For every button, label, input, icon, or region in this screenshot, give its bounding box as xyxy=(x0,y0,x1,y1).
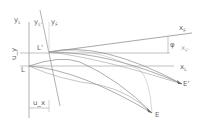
arrow-E-icon xyxy=(147,108,152,113)
label-E-prime: E' xyxy=(183,80,189,88)
label-u-x: u_x xyxy=(33,99,45,107)
label-yL: yL xyxy=(14,16,21,25)
label-L: L xyxy=(21,66,25,74)
label-L-prime: L' xyxy=(37,44,43,52)
label-yF: yF xyxy=(51,18,58,27)
trajectory-curve xyxy=(29,59,152,113)
trajectory-curve xyxy=(29,66,152,113)
label-u-y: u_y xyxy=(10,48,18,60)
arrow-E-prime-icon xyxy=(177,80,182,84)
label-xF-prime: xF' xyxy=(181,44,189,53)
label-xF: xF xyxy=(179,24,186,33)
label-phi: φ xyxy=(170,41,175,49)
trajectory-curve xyxy=(49,50,152,113)
label-yL-prime: yL' xyxy=(34,18,42,27)
trajectory-diagram: yL yL' yF L' L u_y u_x xF φ xF' xL E' E xyxy=(0,0,201,121)
label-E: E xyxy=(155,111,159,119)
label-xL: xL xyxy=(180,63,187,72)
